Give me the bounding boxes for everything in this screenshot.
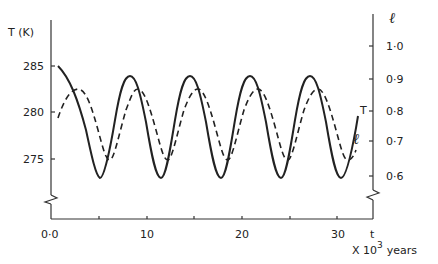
chart: T (K) 285 280 275 0·0 10 20 30 t X 103ye… bbox=[0, 0, 438, 264]
left-axis bbox=[45, 20, 57, 219]
x-axis-unit: X 103years bbox=[352, 240, 417, 257]
x-tick-0: 0·0 bbox=[41, 228, 59, 241]
right-tick-1.0: 1·0 bbox=[386, 40, 404, 53]
right-tick-0.7: 0·7 bbox=[386, 135, 404, 148]
x-tick-10: 10 bbox=[140, 228, 154, 241]
left-tick-285: 285 bbox=[23, 60, 44, 73]
curve-label-l: ℓ bbox=[353, 130, 359, 148]
x-axis-symbol: t bbox=[370, 228, 375, 241]
left-tick-280: 280 bbox=[23, 106, 44, 119]
right-tick-0.8: 0·8 bbox=[386, 105, 404, 118]
right-tick-0.9: 0·9 bbox=[386, 73, 404, 86]
curve-label-T: T bbox=[359, 104, 367, 117]
right-tick-0.6: 0·6 bbox=[386, 170, 404, 183]
x-tick-20: 20 bbox=[235, 228, 249, 241]
left-axis-title: T (K) bbox=[7, 26, 34, 39]
left-tick-275: 275 bbox=[23, 153, 44, 166]
x-axis bbox=[51, 216, 373, 219]
right-axis bbox=[367, 14, 379, 219]
x-tick-30: 30 bbox=[331, 228, 345, 241]
right-axis-title: ℓ bbox=[389, 9, 395, 27]
temperature-curve bbox=[58, 66, 358, 178]
